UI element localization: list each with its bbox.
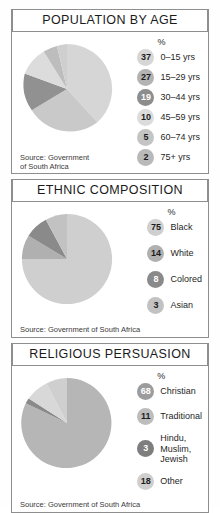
legend-value-bubble: 19 [137, 89, 154, 106]
panel-body: % 75 Black 14 White 8 Colored 3 [12, 202, 208, 337]
legend-value-bubble: 27 [137, 69, 154, 86]
legend-item: 3 Hindu, Muslim, Jewish [137, 433, 191, 465]
legend-value-bubble: 18 [137, 473, 154, 490]
legend-item-label: Traditional [160, 411, 202, 422]
legend-item: 68 Christian [137, 383, 196, 400]
pie-svg [19, 375, 115, 471]
legend-value-bubble: 3 [137, 440, 154, 457]
legend-item: 14 White [147, 245, 193, 262]
pie-chart-ethnic [19, 207, 115, 307]
panel-body: % 37 0–15 yrs 27 15–29 yrs 19 30–44 yrs [12, 32, 208, 173]
legend-population: % 37 0–15 yrs 27 15–29 yrs 19 30–44 yrs [137, 37, 202, 169]
source-note: Source: Government of South Africa [20, 325, 202, 334]
legend-item: 75 Black [147, 219, 192, 236]
legend-item: 27 15–29 yrs [137, 69, 200, 86]
panel-title-box: RELIGIOUS PERSUASION [12, 343, 208, 366]
legend-item-label: Other [160, 476, 183, 487]
pie-svg [19, 211, 115, 307]
pie-chart-population [19, 37, 115, 137]
legend-item: 5 60–74 yrs [137, 129, 200, 146]
pie-chart-religious [19, 371, 115, 471]
legend-unit-header: % [157, 371, 165, 381]
legend-value-bubble: 3 [147, 297, 164, 314]
legend-value-bubble: 5 [137, 129, 154, 146]
panel-title-box: POPULATION BY AGE [12, 9, 208, 32]
legend-item: 37 0–15 yrs [137, 49, 195, 66]
legend-item-label: 45–59 yrs [160, 112, 200, 123]
source-note: Source: Government of South Africa [20, 500, 202, 509]
legend-item-label: White [170, 248, 193, 259]
legend-item-label: 75+ yrs [160, 152, 190, 163]
legend-value-bubble: 14 [147, 245, 164, 262]
legend-value-bubble: 37 [137, 49, 154, 66]
legend-value-bubble: 75 [147, 219, 164, 236]
legend-value-bubble: 68 [137, 383, 154, 400]
legend-item-label: Colored [170, 274, 202, 285]
legend-item-label: Hindu, Muslim, Jewish [160, 433, 191, 465]
legend-unit-header: % [167, 207, 175, 217]
legend-value-bubble: 8 [147, 271, 164, 288]
chart-panel-ethnic-composition: ETHNIC COMPOSITION % 75 Black [11, 179, 209, 338]
legend-item-label: 0–15 yrs [160, 52, 195, 63]
legend-item-label: 30–44 yrs [160, 92, 200, 103]
chart-panel-religious-persuasion: RELIGIOUS PERSUASION % 68 Christian [11, 343, 209, 513]
legend-item-label: 15–29 yrs [160, 72, 200, 83]
legend-item: 2 75+ yrs [137, 149, 190, 166]
legend-value-bubble: 2 [137, 149, 154, 166]
legend-item: 8 Colored [147, 271, 202, 288]
legend-item-label: Black [170, 222, 192, 233]
legend-value-bubble: 11 [137, 408, 154, 425]
legend-item-label: Asian [170, 300, 193, 311]
panel-body: % 68 Christian 11 Traditional 3 Hindu, M… [12, 366, 208, 512]
legend-item: 11 Traditional [137, 408, 202, 425]
legend-value-bubble: 10 [137, 109, 154, 126]
pie-svg [19, 41, 115, 137]
chart-panel-population-by-age: POPULATION BY AGE % 37 [11, 9, 209, 174]
legend-item-label: 60–74 yrs [160, 132, 200, 143]
legend-ethnic: % 75 Black 14 White 8 Colored 3 [147, 207, 202, 323]
page-title: ETHNIC COMPOSITION [13, 183, 207, 197]
page-title: POPULATION BY AGE [13, 13, 207, 27]
legend-item: 19 30–44 yrs [137, 89, 200, 106]
legend-item: 10 45–59 yrs [137, 109, 200, 126]
legend-item: 3 Asian [147, 297, 193, 314]
legend-religious: % 68 Christian 11 Traditional 3 Hindu, M… [137, 371, 202, 498]
legend-unit-header: % [157, 37, 165, 47]
legend-item: 18 Other [137, 473, 183, 490]
page-title: RELIGIOUS PERSUASION [13, 347, 207, 361]
panel-title-box: ETHNIC COMPOSITION [12, 179, 208, 202]
legend-item-label: Christian [160, 386, 196, 397]
